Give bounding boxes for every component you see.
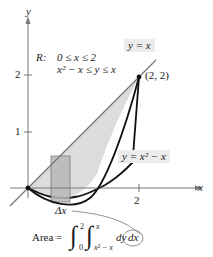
x-tick-label-2: 2 bbox=[134, 195, 140, 206]
area-formula: Area = ∫ 2 0 ∫ x x² − x dy dx bbox=[32, 222, 212, 252]
outer-integral-sign: ∫ bbox=[70, 223, 77, 249]
inner-integral-sign: ∫ bbox=[86, 223, 93, 249]
x-axis-label: x bbox=[198, 182, 203, 193]
dy-term: dy bbox=[116, 232, 126, 243]
region-line-1: 0 ≤ x ≤ 2 bbox=[57, 52, 96, 63]
inner-lower-limit: x² − x bbox=[94, 244, 113, 252]
shaded-region bbox=[28, 77, 139, 199]
inner-upper-limit: x bbox=[96, 223, 100, 231]
point-label: (2, 2) bbox=[145, 70, 169, 81]
region-line-2: x² − x ≤ y ≤ x bbox=[57, 64, 116, 75]
strip-width-label: Δx bbox=[55, 205, 66, 216]
diagram-canvas bbox=[0, 0, 213, 257]
upper-curve-label: y = x bbox=[124, 39, 155, 52]
y-tick-label-2: 2 bbox=[15, 69, 21, 80]
origin-point bbox=[26, 186, 31, 191]
lower-curve-label: y = x² − x bbox=[118, 150, 170, 163]
outer-lower-limit: 0 bbox=[79, 244, 83, 252]
y-axis-arrow bbox=[26, 16, 31, 24]
y-tick-label-1: 1 bbox=[15, 126, 21, 137]
formula-prefix: Area = bbox=[32, 232, 62, 243]
dx-term: dx bbox=[128, 232, 138, 243]
outer-upper-limit: 2 bbox=[80, 223, 84, 231]
region-name: R: bbox=[36, 52, 46, 63]
y-axis-label: y bbox=[26, 6, 31, 17]
point-2-2 bbox=[137, 75, 142, 80]
